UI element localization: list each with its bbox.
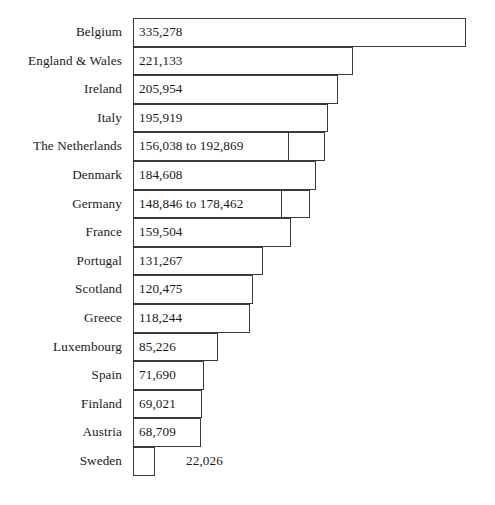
category-label: Italy — [0, 104, 122, 133]
bar-value-label: 69,021 — [139, 390, 176, 419]
chart-row: Luxembourg85,226 — [0, 333, 495, 362]
chart-row: The Netherlands156,038 to 192,869 — [0, 132, 495, 161]
category-label: Austria — [0, 418, 122, 447]
chart-row: Portugal131,267 — [0, 247, 495, 276]
category-label: Sweden — [0, 447, 122, 476]
bar-value-label: 22,026 — [186, 447, 223, 476]
chart-row: England & Wales221,133 — [0, 47, 495, 76]
bar-value-label: 156,038 to 192,869 — [139, 132, 243, 161]
bar-value-label: 159,504 — [139, 218, 183, 247]
bar-value-label: 184,608 — [139, 161, 183, 190]
bar-value-label: 205,954 — [139, 75, 183, 104]
chart-row: Austria68,709 — [0, 418, 495, 447]
category-label: Denmark — [0, 161, 122, 190]
category-label: France — [0, 218, 122, 247]
bar-value-label: 120,475 — [139, 275, 183, 304]
chart-row: Germany148,846 to 178,462 — [0, 190, 495, 219]
chart-row: Scotland120,475 — [0, 275, 495, 304]
category-label: Scotland — [0, 275, 122, 304]
bar-value-label: 335,278 — [139, 18, 183, 47]
category-label: Portugal — [0, 247, 122, 276]
category-label: Finland — [0, 390, 122, 419]
category-label: The Netherlands — [0, 132, 122, 161]
chart-row: Spain71,690 — [0, 361, 495, 390]
chart-row: Belgium335,278 — [0, 18, 495, 47]
bar-value-label: 131,267 — [139, 247, 183, 276]
chart-row: Ireland205,954 — [0, 75, 495, 104]
chart-row: Sweden22,026 — [0, 447, 495, 476]
category-label: Luxembourg — [0, 333, 122, 362]
bar — [133, 447, 155, 476]
bar-value-label: 195,919 — [139, 104, 183, 133]
category-label: Spain — [0, 361, 122, 390]
chart-row: Denmark184,608 — [0, 161, 495, 190]
category-label: England & Wales — [0, 47, 122, 76]
chart-row: Finland69,021 — [0, 390, 495, 419]
chart-row: France159,504 — [0, 218, 495, 247]
bar-value-label: 148,846 to 178,462 — [139, 190, 243, 219]
chart-row: Greece118,244 — [0, 304, 495, 333]
category-label: Germany — [0, 190, 122, 219]
bar-value-label: 221,133 — [139, 47, 183, 76]
bar-value-label: 85,226 — [139, 333, 176, 362]
bar-chart: Belgium335,278England & Wales221,133Irel… — [0, 0, 495, 505]
category-label: Greece — [0, 304, 122, 333]
bar-value-label: 118,244 — [139, 304, 182, 333]
range-lower-bound-marker — [281, 191, 282, 218]
category-label: Ireland — [0, 75, 122, 104]
category-label: Belgium — [0, 18, 122, 47]
range-lower-bound-marker — [288, 133, 289, 160]
bar-value-label: 68,709 — [139, 418, 176, 447]
bar-value-label: 71,690 — [139, 361, 176, 390]
chart-row: Italy195,919 — [0, 104, 495, 133]
